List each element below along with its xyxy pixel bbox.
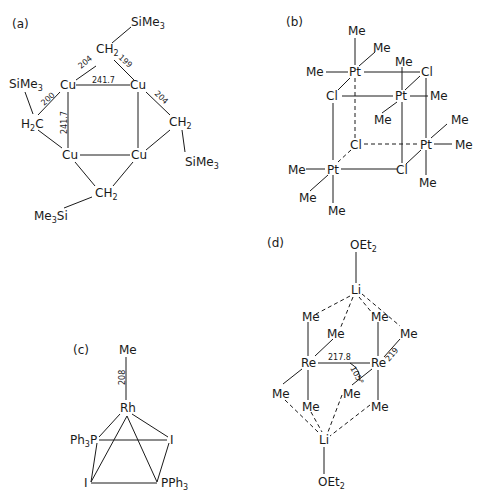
bond-length-cu-c-top-right: 199	[117, 53, 134, 70]
panel-label-b: (b)	[286, 15, 303, 29]
atom-me: Me	[371, 400, 389, 414]
atom-me: Me	[306, 65, 324, 79]
atom-me: Me	[272, 387, 290, 401]
bond-length-cu-cu-top: 241.7	[92, 76, 115, 85]
atom-me: Me	[374, 113, 392, 127]
atom-cl-4: Cl	[396, 163, 408, 177]
atom-me: Me	[328, 204, 346, 218]
atom-me: Me	[288, 163, 306, 177]
atom-me: Me	[299, 191, 317, 205]
atom-oet2-bottom: OEt2	[318, 475, 345, 491]
bond-length-cu-cu-left: 241.7	[60, 111, 69, 134]
atom-me: Me	[451, 113, 469, 127]
atom-sime3-left: SiMe3	[9, 77, 43, 93]
atom-pph3: PPh3	[161, 476, 188, 492]
atom-me: Me	[302, 310, 320, 324]
atom-me: Me	[373, 41, 391, 55]
atom-ch2-top: CH2	[96, 42, 119, 58]
atom-me: Me	[348, 24, 366, 38]
panel-c: (c) Me 208 Rh Ph3P I I PPh3	[70, 343, 188, 492]
angle-re-re-me: 105°	[348, 365, 365, 386]
atom-pt-1: Pt	[349, 65, 361, 79]
atom-me: Me	[430, 89, 448, 103]
atom-rh: Rh	[120, 401, 136, 415]
atom-me: Me	[419, 176, 437, 190]
panel-d: (d) OEt2 Li Me Me Me Me Re Re 217	[267, 236, 418, 491]
atom-cu-bottom-right: Cu	[131, 148, 147, 162]
atom-ch2-bottom: CH2	[95, 186, 118, 202]
atom-ph3p: Ph3P	[70, 433, 97, 449]
panel-label-c: (c)	[73, 343, 89, 357]
bond-length-cu-c-right: 204	[153, 89, 170, 106]
bond-length-cu-c-top-left: 204	[77, 54, 94, 71]
atom-me: Me	[455, 138, 473, 152]
atom-h2c-left: H2C	[21, 117, 44, 133]
atom-me: Me	[371, 310, 389, 324]
atom-me: Me	[327, 327, 345, 341]
atom-li-bottom: Li	[319, 433, 329, 447]
atom-pt-4: Pt	[420, 138, 432, 152]
atom-cu-bottom-left: Cu	[62, 148, 78, 162]
atom-me: Me	[395, 55, 413, 69]
bond-length-re-me: 219	[384, 346, 401, 363]
atom-me: Me	[343, 387, 361, 401]
panel-label-d: (d)	[267, 236, 284, 250]
panel-label-a: (a)	[12, 17, 29, 31]
figure-canvas: (a) SiMe3 CH2 Cu Cu Cu Cu SiMe3 H2C CH2 …	[0, 0, 478, 501]
atom-pt-3: Pt	[327, 163, 339, 177]
atom-sime3-right: SiMe3	[185, 155, 219, 171]
atom-re-left: Re	[301, 356, 316, 370]
panel-a: (a) SiMe3 CH2 Cu Cu Cu Cu SiMe3 H2C CH2 …	[9, 15, 219, 225]
atom-cl-2: Cl	[326, 89, 338, 103]
atom-cu-top-left: Cu	[60, 78, 76, 92]
atom-cl-1: Cl	[421, 65, 433, 79]
structure-diagrams: (a) SiMe3 CH2 Cu Cu Cu Cu SiMe3 H2C CH2 …	[0, 0, 478, 501]
atom-me: Me	[119, 343, 137, 357]
bond-length-cu-c-left: 200	[39, 91, 56, 108]
atom-i-right: I	[170, 433, 174, 447]
atom-pt-2: Pt	[395, 89, 407, 103]
atom-me3si-bottom: Me3Si	[34, 209, 68, 225]
atom-li-top: Li	[351, 283, 361, 297]
atom-cu-top-right: Cu	[130, 78, 146, 92]
atom-ch2-right: CH2	[169, 115, 192, 131]
atom-me: Me	[400, 327, 418, 341]
atom-sime3-top: SiMe3	[131, 15, 165, 31]
atom-i-bottom: I	[84, 476, 88, 490]
bond-length-re-re: 217.8	[328, 353, 351, 362]
atom-cl-3: Cl	[350, 138, 362, 152]
atom-me: Me	[302, 400, 320, 414]
panel-b: (b) Me	[286, 15, 473, 218]
atom-oet2-top: OEt2	[350, 238, 377, 254]
bond-length-rh-me: 208	[118, 370, 127, 385]
